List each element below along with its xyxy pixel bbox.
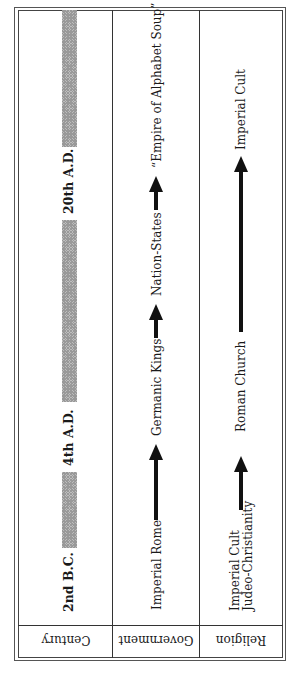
century-bar-2nd-bc-to-4th-ad <box>62 472 77 548</box>
row-label-government: Government <box>113 633 199 647</box>
century-marker-20th-ad: 20th A.D. <box>62 149 76 214</box>
arrow-up-icon <box>149 304 163 320</box>
arrow-shaft <box>239 472 243 510</box>
century-bar-4th-ad-to-20th-ad <box>62 220 77 402</box>
government-stage-imperial-rome: Imperial Rome <box>150 520 164 610</box>
century-marker-4th-ad: 4th A.D. <box>62 409 76 466</box>
divider-government-religion <box>199 10 200 658</box>
government-stage-nation-states: Nation-States <box>150 212 164 296</box>
religion-stage-imperial-cult-2: Imperial Cult <box>234 69 248 150</box>
arrow-shaft <box>154 460 158 520</box>
arrow-up-icon <box>234 456 248 472</box>
government-stage-empire-of-alphabet-soup: “Empire of Alphabet Soup” <box>150 3 164 168</box>
row-label-divider <box>18 625 283 626</box>
religion-stage-roman-church: Roman Church <box>234 341 248 432</box>
arrow-shaft <box>154 192 158 210</box>
century-bar-20th-ad-onward <box>62 10 77 147</box>
row-label-religion: Religion <box>200 633 282 647</box>
arrow-shaft <box>154 320 158 338</box>
century-marker-2nd-bc: 2nd B.C. <box>62 552 76 612</box>
row-label-century: Century <box>20 633 112 647</box>
religion-stage-judeo-christianity: Judeo-Christianity <box>241 501 255 611</box>
divider-century-government <box>112 10 113 658</box>
arrow-up-icon <box>149 176 163 192</box>
arrow-up-icon <box>149 444 163 460</box>
government-stage-germanic-kings: Germanic Kings <box>150 339 164 436</box>
religion-stage-imperial-cult-1: Imperial Cult <box>228 530 242 611</box>
arrow-shaft <box>239 172 243 332</box>
arrow-up-icon <box>234 156 248 172</box>
